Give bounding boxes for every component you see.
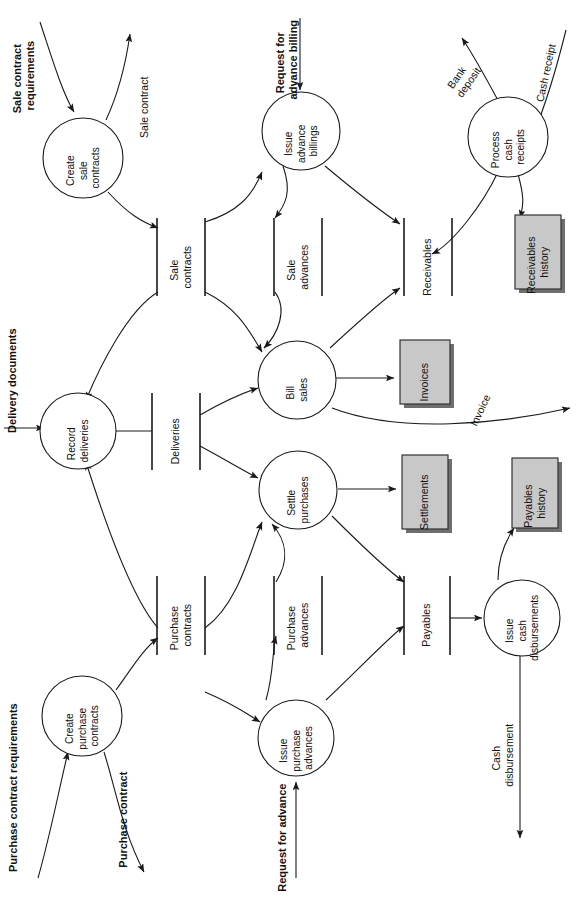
flow-path-sale-contract: [106, 34, 130, 120]
datastore-payables: Payables: [404, 576, 450, 655]
process-record-deliveries: Record deliveries: [40, 393, 116, 469]
datastore-label-sale-advances: Sale advances: [285, 224, 310, 289]
flow-path-create-to-sale-contracts: [108, 192, 158, 228]
flow-label-sale-contract-requirements: Sale contract requirements: [11, 23, 36, 114]
flow-path-purchase-contracts-to-settle-purchases: [205, 522, 262, 628]
datastore-label-receivables: Receivables: [421, 218, 433, 296]
flow-path-sale-contracts-to-record-deliveries: [86, 292, 158, 400]
flow-path-issue-purchase-advances-to-payables: [326, 626, 404, 700]
flow-path-create-purchase-to-purchase-contracts: [116, 638, 158, 690]
datastore-label-deliveries: Deliveries: [169, 398, 181, 465]
external-settlements: Settlements: [402, 454, 452, 533]
process-create-purchase-contracts: Create purchase contracts: [42, 676, 122, 756]
dfd-canvas: Sale contracts Sale advances Receivables…: [0, 0, 579, 899]
flow-path-bill-sales-to-receivables: [330, 288, 400, 348]
external-receivables-history: Receivables history: [515, 210, 565, 293]
flow-label-request-for-advance: Request for advance: [276, 768, 288, 891]
flow-label-purchase-contract-requirements: Purchase contract requirements: [7, 688, 19, 872]
flow-path-deliveries-to-bill-sales: [200, 388, 258, 415]
process-label-record-deliveries: Record deliveries: [66, 400, 90, 463]
flow-path-sale-contract-requirements: [40, 22, 74, 112]
flow-path-process-cash-receipts-to-receivables-history: [518, 174, 523, 218]
external-label-settlements: Settlements: [418, 454, 430, 530]
datastore-label-purchase-advances: Purchase advances: [285, 580, 310, 651]
flow-path-invoice-out: [332, 408, 570, 424]
process-bill-sales: Bill sales: [258, 341, 336, 419]
datastore-receivables: Receivables: [404, 218, 452, 296]
process-label-settle-purchases: Settle purchases: [286, 457, 310, 524]
process-label-issue-advance-billings: Issue advance billings: [283, 99, 319, 163]
process-issue-advance-billings: Issue advance billings: [262, 92, 340, 170]
process-label-create-purchase-contracts: Create purchase contracts: [64, 682, 100, 749]
datastore-deliveries: Deliveries: [152, 393, 200, 470]
process-label-process-cash-receipts: Process cash receipts: [490, 106, 526, 168]
process-process-cash-receipts: Process cash receipts: [468, 97, 548, 177]
flow-path-purchase-contracts-to-record-deliveries: [86, 462, 158, 628]
process-issue-purchase-advances: Issue purchase advances: [258, 700, 334, 776]
flow-path-purchase-contracts-to-issue-purchase-advances: [205, 692, 260, 722]
datastore-purchase-contracts: Purchase contracts: [157, 576, 205, 655]
flow-path-purchase-contract-requirements: [38, 752, 68, 878]
flow-path-sale-contracts-to-issue-advance-billings: [205, 172, 262, 222]
flow-path-settle-purchases-to-payables: [332, 516, 404, 582]
flow-path-process-cash-receipts-to-receivables: [432, 172, 498, 254]
flow-label-delivery-documents: Delivery documents: [6, 313, 18, 433]
external-payables-history: Payables history: [512, 458, 562, 532]
datastore-sale-contracts: Sale contracts: [157, 218, 205, 296]
process-label-create-sale-contracts: Create sale contracts: [65, 127, 101, 188]
datastore-sale-advances: Sale advances: [274, 218, 322, 296]
flow-path-issue-advance-billings-to-receivables: [325, 166, 400, 224]
flow-label-bank-deposit: Bank deposit: [443, 46, 491, 100]
flow-path-purchase-advances-to-settle-purchases: [272, 524, 285, 582]
dfd-svg: Sale contracts Sale advances Receivables…: [0, 0, 579, 899]
external-label-payables-history: Payables history: [522, 458, 547, 527]
flow-label-purchase-contract: Purchase contract: [117, 756, 129, 867]
flow-path-sale-advances-to-bill-sales: [264, 292, 281, 348]
flow-path-issue-advance-billings-to-sale-advances: [275, 166, 287, 218]
datastore-label-payables: Payables: [420, 583, 432, 647]
flow-path-sale-contracts-to-bill-sales: [205, 292, 262, 352]
flow-label-request-for-advance-billing: Request for advance billing: [274, 5, 299, 100]
process-create-sale-contracts: Create sale contracts: [43, 118, 123, 198]
datastore-label-purchase-contracts: Purchase contracts: [168, 580, 193, 651]
datastore-label-sale-contracts: Sale contracts: [168, 225, 193, 288]
flow-label-cash-disbursement: Cash disbursement: [490, 709, 515, 787]
process-settle-purchases: Settle purchases: [259, 451, 337, 529]
datastore-purchase-advances: Purchase advances: [274, 576, 322, 655]
flow-path-issue-cash-disbursements-to-payables-history: [498, 528, 514, 580]
process-issue-cash-disbursements: Issue cash disbursements: [484, 575, 560, 661]
process-label-issue-purchase-advances: Issue purchase advances: [278, 704, 314, 771]
external-label-invoices: Invoices: [418, 343, 430, 402]
flow-label-sale-contract: Sale contract: [138, 62, 150, 138]
external-invoices: Invoices: [400, 340, 454, 408]
flow-path-deliveries-to-settle-purchases: [200, 446, 258, 478]
process-label-bill-sales: Bill sales: [285, 358, 309, 402]
